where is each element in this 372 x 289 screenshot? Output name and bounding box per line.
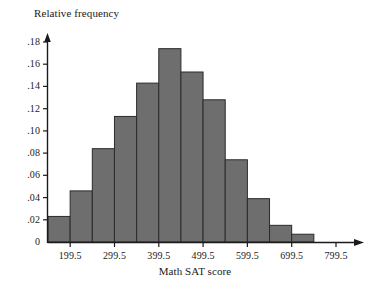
histogram-bar	[92, 149, 114, 242]
y-tick-label: .18	[14, 37, 40, 47]
x-tick-label: 199.5	[47, 251, 93, 261]
histogram-bar	[114, 116, 136, 242]
y-tick-label: .04	[14, 193, 40, 203]
histogram-bar	[159, 49, 181, 242]
x-tick-label: 799.5	[313, 251, 359, 261]
y-tick-label: .10	[14, 126, 40, 136]
histogram-bar	[70, 191, 92, 242]
bar-series	[48, 49, 314, 242]
histogram-bar	[48, 216, 70, 242]
y-tick-label: .12	[14, 104, 40, 114]
x-axis-title-text: Math SAT score	[141, 265, 232, 277]
x-tick-label: 399.5	[136, 251, 182, 261]
y-tick-label: .06	[14, 170, 40, 180]
histogram-bar	[203, 100, 225, 242]
x-tick-label: 499.5	[180, 251, 226, 261]
histogram-bar	[247, 199, 269, 242]
y-tick-label: .08	[14, 148, 40, 158]
histogram-bar	[137, 83, 159, 242]
y-tick-label: .16	[14, 59, 40, 69]
histogram-bar	[270, 225, 292, 242]
histogram-bar	[225, 160, 247, 242]
x-axis-title: Math SAT score	[0, 265, 372, 278]
histogram-figure: Relative frequency 0.02.04.06.08.10.12.1…	[0, 0, 372, 289]
histogram-bar	[181, 72, 203, 242]
histogram-bar	[292, 234, 314, 242]
y-tick-label: 0	[14, 237, 40, 247]
x-axis-ticks	[70, 243, 336, 247]
x-axis-arrowhead	[354, 239, 364, 246]
histogram-svg	[0, 0, 372, 289]
y-tick-label: .14	[14, 81, 40, 91]
x-tick-label: 299.5	[92, 251, 138, 261]
x-tick-label: 699.5	[269, 251, 315, 261]
x-tick-label: 599.5	[224, 251, 270, 261]
plot-area	[0, 0, 372, 289]
y-axis-arrowhead	[44, 33, 51, 42]
y-tick-label: .02	[14, 215, 40, 225]
